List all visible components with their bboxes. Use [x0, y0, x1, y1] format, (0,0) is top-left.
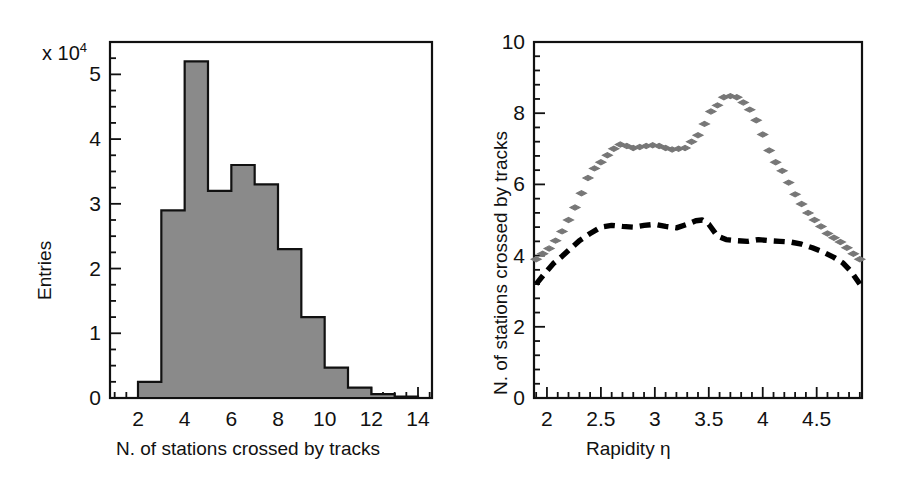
left-x-tick-label: 2	[132, 407, 144, 430]
data-point-marker	[751, 118, 761, 123]
left-x-tick-label: 10	[313, 407, 336, 430]
right-y-tick-label: 10	[502, 30, 525, 53]
data-point-marker	[816, 224, 826, 229]
data-point-marker	[609, 146, 619, 151]
data-point-marker	[855, 257, 865, 262]
data-point-marker	[764, 148, 774, 153]
data-point-marker	[777, 168, 787, 173]
right-marker-series	[531, 94, 865, 262]
data-point-marker	[596, 160, 606, 165]
right-y-tick-label: 2	[513, 315, 525, 338]
data-point-marker	[589, 166, 599, 171]
data-point-marker	[745, 107, 755, 112]
right-y-tick-label: 8	[513, 101, 525, 124]
right-x-tick-label: 3.5	[694, 407, 723, 430]
left-histogram-plot: 2468101214012345	[0, 0, 460, 430]
right-profile-panel: N. of stations crossed by tracks Rapidit…	[460, 0, 900, 489]
data-point-marker	[810, 217, 820, 222]
left-y-tick-label: 5	[89, 62, 101, 85]
right-x-axis-title: Rapidity η	[586, 438, 671, 460]
right-y-tick-label: 0	[513, 386, 525, 409]
data-point-marker	[570, 205, 580, 210]
left-y-tick-label: 2	[89, 257, 101, 280]
left-x-tick-label: 6	[225, 407, 237, 430]
data-point-marker	[784, 180, 794, 185]
left-y-tick-label: 3	[89, 192, 101, 215]
left-x-tick-label: 14	[406, 407, 430, 430]
right-profile-plot: 22.533.544.50246810	[460, 0, 900, 430]
data-point-marker	[706, 109, 716, 114]
data-point-marker	[693, 133, 703, 138]
data-point-marker	[602, 153, 612, 158]
left-y-tick-label: 0	[89, 386, 101, 409]
data-point-marker	[829, 235, 839, 240]
left-x-tick-label: 12	[360, 407, 383, 430]
data-point-marker	[576, 191, 586, 196]
data-point-marker	[544, 246, 554, 251]
left-histogram-panel: x 104 Entries N. of stations crossed by …	[0, 0, 460, 489]
data-point-marker	[699, 121, 709, 126]
left-y-tick-label: 4	[89, 127, 101, 150]
data-point-marker	[822, 231, 832, 236]
right-y-tick-label: 4	[513, 244, 525, 267]
data-point-marker	[835, 239, 845, 244]
data-point-marker	[848, 251, 858, 256]
data-point-marker	[771, 160, 781, 165]
data-point-marker	[531, 257, 541, 262]
right-dashed-series	[536, 220, 860, 284]
data-point-marker	[803, 210, 813, 215]
figure-root: x 104 Entries N. of stations crossed by …	[0, 0, 900, 489]
data-point-marker	[557, 229, 567, 234]
right-x-tick-label: 3	[649, 407, 661, 430]
left-x-tick-label: 4	[179, 407, 191, 430]
left-x-axis-title: N. of stations crossed by tracks	[116, 438, 380, 460]
right-x-tick-label: 4	[757, 407, 769, 430]
right-x-tick-label: 4.5	[802, 407, 831, 430]
data-point-marker	[842, 245, 852, 250]
data-point-marker	[551, 238, 561, 243]
left-y-tick-label: 1	[89, 321, 101, 344]
left-histogram-bars	[138, 61, 418, 398]
data-point-marker	[758, 132, 768, 137]
data-point-marker	[738, 100, 748, 105]
right-x-tick-label: 2	[541, 407, 553, 430]
data-point-marker	[712, 103, 722, 108]
data-point-marker	[564, 217, 574, 222]
left-x-tick-label: 8	[272, 407, 284, 430]
data-point-marker	[797, 201, 807, 206]
data-point-marker	[687, 139, 697, 144]
right-x-tick-label: 2.5	[586, 407, 615, 430]
data-point-marker	[790, 192, 800, 197]
data-point-marker	[583, 175, 593, 180]
right-y-tick-label: 6	[513, 172, 525, 195]
